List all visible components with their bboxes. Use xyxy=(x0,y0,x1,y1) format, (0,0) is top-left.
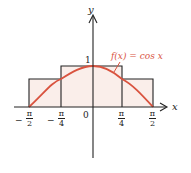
rectangle-fills xyxy=(29,66,153,107)
tick-neg-pi-4-sign: − xyxy=(47,115,55,125)
tick-neg-pi-2: π 2 xyxy=(26,109,33,128)
y-tick-label-one: 1 xyxy=(85,56,91,65)
riemann-sum-diagram xyxy=(0,0,191,173)
tick-denominator: 2 xyxy=(150,119,155,128)
origin-label: 0 xyxy=(83,111,89,120)
x-axis-label: x xyxy=(172,102,178,112)
tick-numerator: π xyxy=(119,109,124,118)
tick-neg-pi-4: π 4 xyxy=(58,109,65,128)
tick-neg-pi-2-sign: − xyxy=(15,115,23,125)
tick-numerator: π xyxy=(27,109,32,118)
tick-pi-4: π 4 xyxy=(118,109,125,128)
tick-denominator: 4 xyxy=(119,119,124,128)
y-axis-label: y xyxy=(88,5,94,15)
tick-pi-2: π 2 xyxy=(149,109,156,128)
tick-numerator: π xyxy=(150,109,155,118)
tick-denominator: 4 xyxy=(59,119,64,128)
function-label: f(x) = cos x xyxy=(111,52,163,61)
tick-numerator: π xyxy=(59,109,64,118)
tick-denominator: 2 xyxy=(27,119,32,128)
